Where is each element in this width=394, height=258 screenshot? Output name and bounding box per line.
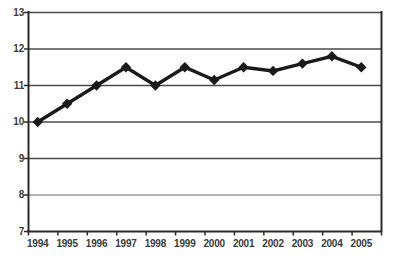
x-tick-label: 2005 [344, 238, 378, 249]
x-axis-tick-labels: 1994199519961997199819992000200120022003… [0, 0, 394, 258]
line-chart: 13121110987 1994199519961997199819992000… [0, 0, 394, 258]
